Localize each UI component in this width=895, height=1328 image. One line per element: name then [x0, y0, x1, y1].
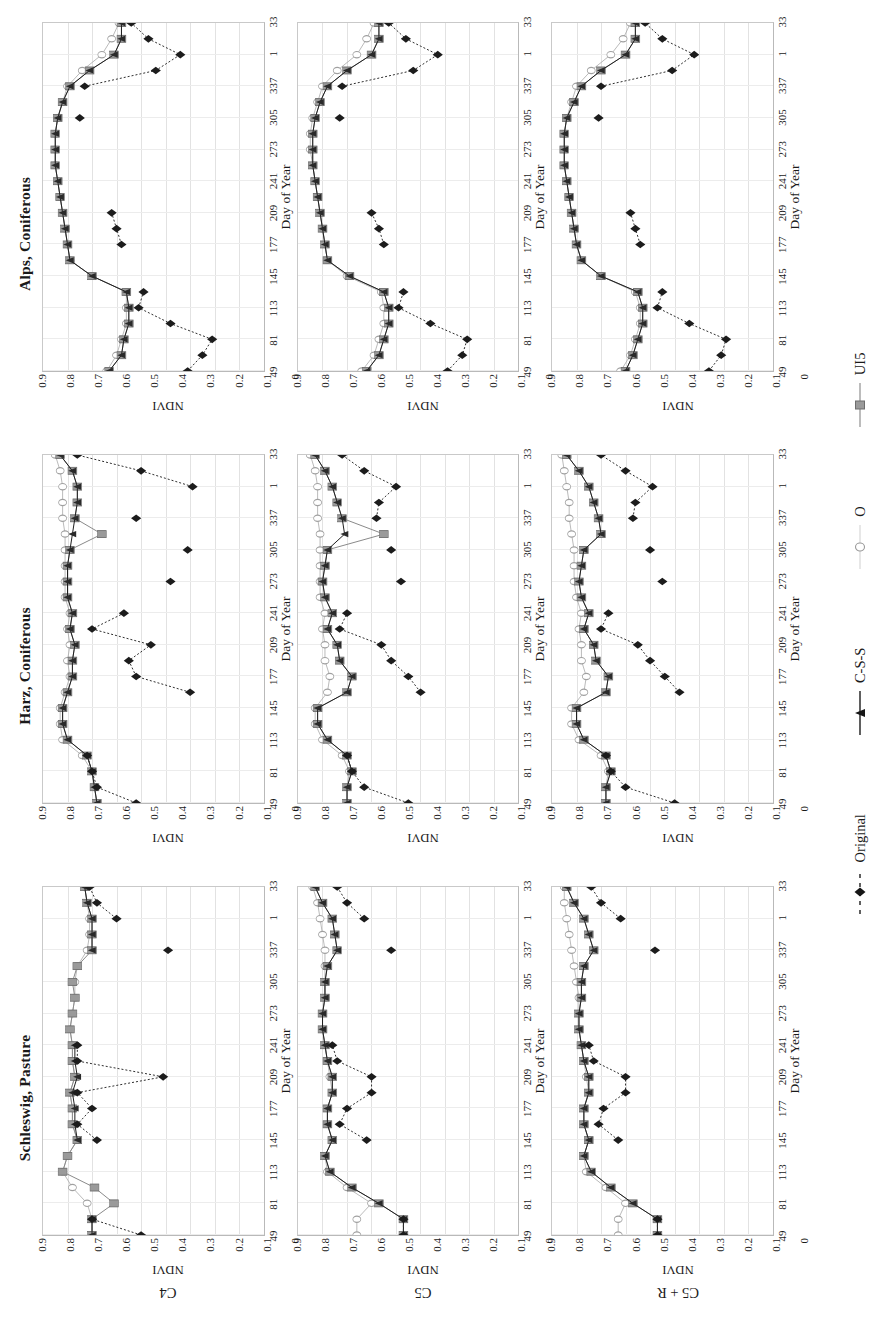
x-axis-title: Day of Year — [532, 886, 548, 1236]
series-marker-dotted-diamond — [403, 799, 413, 804]
series-marker-light-circle — [570, 547, 578, 553]
series-marker-dotted-diamond — [621, 467, 631, 475]
y-tick-2: 0.7 — [347, 806, 359, 820]
series-marker-dotted-diamond — [163, 946, 173, 954]
figure-legend: OriginalC-S-SOUI5 — [831, 0, 889, 1328]
y-axis-title-wrap: NDVI — [42, 398, 295, 412]
x-axis: 4981113145177209241273305337133Day of Ye… — [519, 22, 549, 372]
y-tick-labels: 0.90.80.70.60.50.40.30.20.10 — [42, 1236, 295, 1262]
series-marker-light-circle — [321, 642, 329, 648]
series-marker-dotted-diamond — [621, 1073, 631, 1081]
series-line-dotted-diamond — [92, 1219, 141, 1235]
plot-area — [551, 454, 774, 804]
y-tick-9: 0 — [798, 806, 810, 812]
series-marker-dotted-diamond — [334, 1120, 344, 1128]
plot-area — [551, 886, 774, 1236]
y-tick-2: 0.7 — [92, 806, 104, 820]
series-marker-dotted-diamond — [425, 320, 435, 328]
y-tick-labels: 0.90.80.70.60.50.40.30.20.10 — [42, 372, 295, 398]
series-marker-light-circle — [583, 673, 591, 679]
series-marker-dotted-diamond — [621, 783, 631, 791]
y-tick-3: 0.6 — [375, 1238, 387, 1252]
series-marker-light-circle — [566, 931, 574, 937]
series-marker-dotted-diamond — [704, 367, 714, 372]
series-line-light-circle — [565, 23, 641, 371]
series-marker-light-circle — [326, 673, 334, 679]
y-axis-title-wrap: NDVI — [297, 830, 550, 844]
row-label-wrap — [551, 844, 804, 878]
panel-2-1: NDVI0.90.80.70.60.50.40.30.20.1049811131… — [297, 22, 552, 446]
legend-item-0: Original — [852, 814, 869, 915]
row-label-wrap — [297, 412, 550, 446]
series-marker-dotted-diamond — [689, 51, 699, 59]
y-tick-4: 0.5 — [148, 806, 160, 820]
legend-key-dotted-diamond-icon — [853, 869, 867, 915]
series-marker-dotted-diamond — [400, 35, 410, 43]
y-axis-title-wrap: NDVI — [297, 1262, 550, 1276]
panel-1-0: NDVI0.90.80.70.60.50.40.30.20.1049811131… — [42, 454, 297, 878]
y-tick-9: 0 — [798, 1238, 810, 1244]
y-tick-4: 0.5 — [658, 1238, 670, 1252]
series-marker-square — [68, 978, 77, 985]
y-tick-6: 0.3 — [459, 374, 471, 388]
plot-wrapper: 4981113145177209241273305337133Day of Ye… — [297, 886, 550, 1236]
y-axis-title: NDVI — [662, 398, 693, 413]
plot-wrapper: 4981113145177209241273305337133Day of Ye… — [42, 454, 295, 804]
y-tick-labels: 0.90.80.70.60.50.40.30.20.10 — [297, 1236, 550, 1262]
row-label: C5 + R — [657, 1285, 699, 1301]
series-marker-dotted-diamond — [143, 35, 153, 43]
series-marker-dotted-diamond — [396, 578, 406, 586]
y-tick-7: 0.2 — [742, 1238, 754, 1252]
x-axis: 4981113145177209241273305337133Day of Ye… — [265, 886, 295, 1236]
series-marker-dotted-diamond — [183, 546, 193, 554]
series-marker-dotted-diamond — [650, 946, 660, 954]
x-axis-title: Day of Year — [787, 454, 803, 804]
legend-label: UI5 — [852, 353, 869, 376]
plot-area — [297, 22, 520, 372]
series-marker-dotted-diamond — [716, 351, 726, 359]
y-tick-0: 0.9 — [291, 1238, 303, 1252]
series-marker-dotted-diamond — [628, 514, 638, 522]
y-tick-5: 0.4 — [431, 1238, 443, 1252]
series-line-dotted-diamond — [342, 455, 396, 518]
y-tick-4: 0.5 — [403, 1238, 415, 1252]
series-marker-light-circle — [607, 52, 615, 58]
series-marker-dotted-diamond — [586, 886, 596, 891]
series-marker-dotted-diamond — [134, 304, 144, 312]
series-marker-light-circle — [561, 468, 569, 474]
series-marker-light-circle — [318, 931, 326, 937]
y-tick-labels: 0.90.80.70.60.50.40.30.20.10 — [551, 1236, 804, 1262]
y-axis-title-wrap: NDVI — [297, 398, 550, 412]
series-marker-light-circle — [316, 916, 324, 922]
legend-label: C-S-S — [852, 648, 869, 683]
y-tick-0: 0.9 — [36, 1238, 48, 1252]
series-line-light-circle — [55, 23, 126, 371]
series-marker-light-circle — [98, 52, 106, 58]
y-tick-9: 0 — [798, 374, 810, 380]
panel-0-1: C5NDVI0.90.80.70.60.50.40.30.20.10498111… — [297, 886, 552, 1310]
plot-wrapper: 4981113145177209241273305337133Day of Ye… — [42, 22, 295, 372]
series-marker-dotted-diamond — [107, 209, 117, 217]
series-marker-dotted-diamond — [640, 22, 650, 27]
series-marker-dotted-diamond — [685, 320, 695, 328]
series-marker-light-circle — [59, 499, 67, 505]
y-axis-title: NDVI — [153, 1262, 184, 1277]
series-marker-dotted-diamond — [359, 783, 369, 791]
y-tick-7: 0.2 — [233, 1238, 245, 1252]
plot-wrapper: 4981113145177209241273305337133Day of Ye… — [297, 22, 550, 372]
series-marker-light-circle — [362, 36, 370, 42]
x-axis: 4981113145177209241273305337133Day of Ye… — [519, 454, 549, 804]
series-marker-light-circle — [580, 689, 588, 695]
series-marker-light-circle — [561, 900, 569, 906]
x-axis: 4981113145177209241273305337133Day of Ye… — [265, 454, 295, 804]
series-layer — [298, 23, 519, 371]
row-label-wrap: C5 + R — [551, 1276, 804, 1310]
series-marker-light-circle — [578, 658, 586, 664]
series-marker-dotted-diamond — [631, 225, 641, 233]
legend-item-2: O — [852, 506, 869, 569]
rotated-page-canvas: Schleswig, PastureHarz, ConiferousAlps, … — [0, 0, 895, 1328]
series-marker-dotted-diamond — [645, 546, 655, 554]
series-marker-light-circle — [68, 1184, 76, 1190]
series-marker-dotted-diamond — [197, 351, 207, 359]
y-tick-5: 0.4 — [686, 806, 698, 820]
